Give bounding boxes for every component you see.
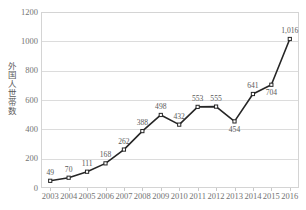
data-point-marker <box>288 37 291 40</box>
data-point-marker <box>49 179 52 182</box>
data-point-marker <box>122 148 125 151</box>
data-point-marker <box>67 176 70 179</box>
data-point-label: 1,016 <box>273 27 306 35</box>
data-point-marker <box>233 120 236 123</box>
data-point-marker <box>141 129 144 132</box>
data-point-marker <box>214 105 217 108</box>
data-point-marker <box>104 162 107 165</box>
data-point-label: 388 <box>125 119 159 127</box>
data-point-label: 432 <box>162 113 196 121</box>
data-point-marker <box>270 83 273 86</box>
data-point-marker <box>178 123 181 126</box>
data-point-label: 168 <box>89 151 123 159</box>
data-point-marker <box>85 170 88 173</box>
data-point-label: 498 <box>144 103 178 111</box>
line-chart: 外国人世帯数 020040060080010001200 20032004200… <box>0 0 306 210</box>
data-point-label: 111 <box>70 160 104 168</box>
data-point-label: 555 <box>199 95 233 103</box>
data-point-label: 704 <box>254 89 288 97</box>
data-point-label: 454 <box>218 126 252 134</box>
data-point-marker <box>196 105 199 108</box>
data-point-label: 262 <box>107 138 141 146</box>
